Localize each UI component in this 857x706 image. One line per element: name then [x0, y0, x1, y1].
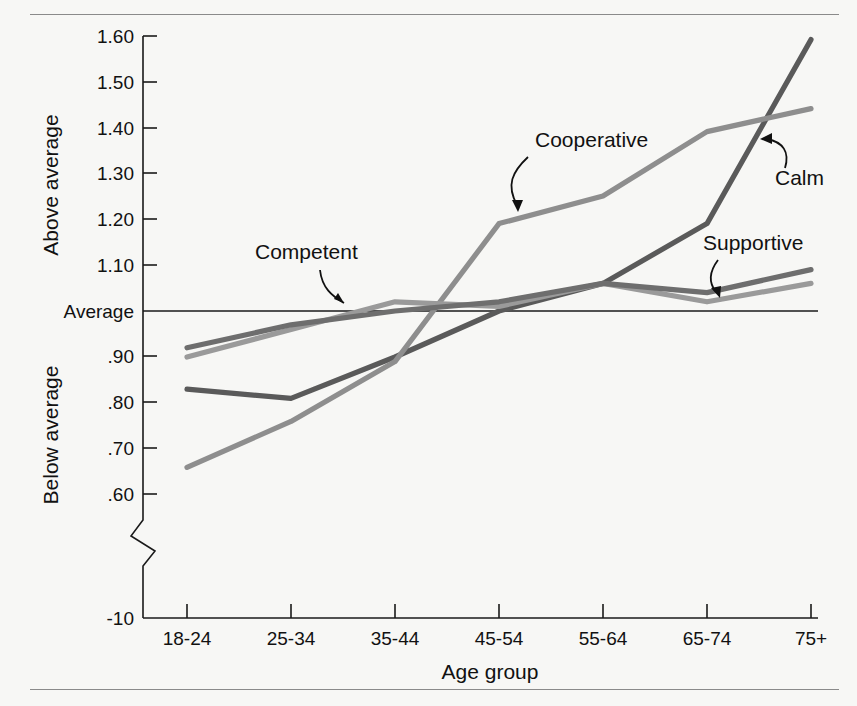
x-tick-label-3: 35-44 — [371, 628, 420, 649]
annotation-label-cooperative: Cooperative — [535, 128, 648, 151]
series-line-calm — [187, 40, 811, 399]
annotation-arrow-cooperative — [511, 157, 528, 205]
x-ticks — [187, 604, 811, 618]
figure-inner: 1.60 1.50 1.40 1.30 1.20 1.10 Average .9… — [0, 0, 857, 706]
annotation-label-competent: Competent — [255, 240, 358, 263]
x-tick-label-2: 25-34 — [267, 628, 316, 649]
y-tick-label-5: 1.20 — [97, 209, 134, 230]
figure-container: 1.60 1.50 1.40 1.30 1.20 1.10 Average .9… — [0, 0, 857, 706]
y-axis-label-above: Above average — [39, 114, 62, 255]
annotation-label-calm: Calm — [775, 166, 824, 189]
x-tick-label-1: 18-24 — [163, 628, 212, 649]
annotation-calm: Calm — [760, 133, 824, 189]
y-tick-label-9: .80 — [108, 392, 134, 413]
x-tick-label-7: 75+ — [795, 628, 827, 649]
annotation-label-supportive: Supportive — [703, 231, 803, 254]
annotation-competent: Competent — [255, 240, 358, 303]
y-tick-label-3: 1.40 — [97, 118, 134, 139]
y-axis — [131, 36, 155, 618]
y-tick-label-1: 1.60 — [97, 26, 134, 47]
x-tick-label-4: 45-54 — [475, 628, 524, 649]
line-chart: 1.60 1.50 1.40 1.30 1.20 1.10 Average .9… — [0, 0, 857, 706]
annotation-arrowhead-competent — [334, 293, 344, 303]
y-tick-label-2: 1.50 — [97, 72, 134, 93]
y-tick-label-break: -10 — [107, 608, 134, 629]
y-tick-label-4: 1.30 — [97, 163, 134, 184]
x-axis-label: Age group — [442, 660, 539, 683]
annotation-arrowhead-calm — [760, 133, 772, 144]
y-tick-label-8: .90 — [108, 346, 134, 367]
y-tick-label-6: 1.10 — [97, 255, 134, 276]
y-tick-label-10: .70 — [108, 438, 134, 459]
annotation-cooperative: Cooperative — [511, 128, 648, 212]
annotation-arrow-calm — [767, 139, 787, 168]
y-tick-label-average: Average — [64, 301, 134, 322]
y-tick-label-11: .60 — [108, 484, 134, 505]
x-tick-label-5: 55-64 — [579, 628, 628, 649]
y-axis-label-below: Below average — [39, 366, 62, 505]
y-ticks — [143, 36, 157, 494]
x-tick-label-6: 65-74 — [683, 628, 732, 649]
annotation-arrowhead-cooperative — [512, 200, 523, 212]
